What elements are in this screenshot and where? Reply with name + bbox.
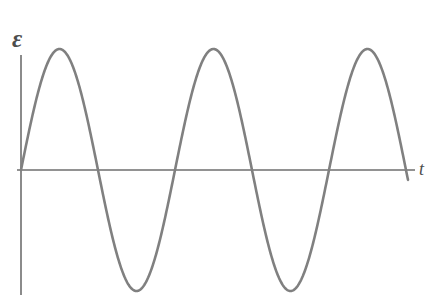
x-axis-label: t bbox=[419, 160, 424, 178]
plot-canvas bbox=[0, 0, 434, 302]
axes-group bbox=[17, 55, 415, 295]
y-axis-label: ε bbox=[12, 26, 22, 51]
sine-wave-figure: ε t bbox=[0, 0, 434, 302]
